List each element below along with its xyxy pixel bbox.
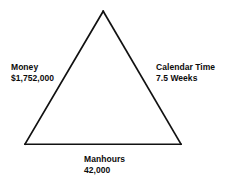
diagram-canvas: Money $1,752,000 Calendar Time 7.5 Weeks… [0, 0, 235, 186]
label-calendar-time-title: Calendar Time [156, 62, 215, 73]
label-manhours-value: 42,000 [84, 165, 125, 176]
label-calendar-time: Calendar Time 7.5 Weeks [156, 62, 215, 83]
label-money-value: $1,752,000 [11, 73, 54, 84]
label-money-title: Money [11, 62, 54, 73]
label-calendar-time-value: 7.5 Weeks [156, 73, 215, 84]
label-manhours-title: Manhours [84, 154, 125, 165]
label-manhours: Manhours 42,000 [84, 154, 125, 175]
label-money: Money $1,752,000 [11, 62, 54, 83]
